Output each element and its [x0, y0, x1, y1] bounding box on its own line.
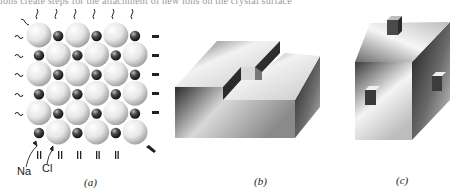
cl-ion [46, 120, 71, 145]
cl-ion [103, 100, 128, 125]
na-ion [53, 108, 63, 118]
figure: ions create steps for the attachment of … [0, 0, 460, 196]
label-cl: Cl [42, 162, 52, 174]
na-ion [91, 70, 101, 80]
na-ion [53, 70, 63, 80]
cl-ion [46, 42, 71, 67]
cl-ion [123, 120, 148, 145]
panel-label-a: (a) [84, 176, 97, 188]
na-ion [111, 50, 121, 60]
cl-ion [123, 81, 148, 106]
na-ion [34, 89, 44, 99]
left-bond-marks [15, 36, 23, 116]
na-ion [111, 128, 121, 138]
cl-ion [27, 23, 52, 48]
cl-ion [103, 23, 128, 48]
nacl-lattice [27, 23, 148, 145]
cl-ion [46, 81, 71, 106]
cl-ion [65, 100, 90, 125]
na-ion [130, 70, 140, 80]
figure-graphics [0, 0, 460, 196]
panel-label-c: (c) [396, 174, 408, 186]
top-adatom [387, 16, 402, 35]
cube-with-adatoms [355, 16, 450, 140]
label-na: Na [17, 165, 31, 177]
cl-ion [27, 100, 52, 125]
cl-ion [84, 42, 109, 67]
panel-label-b: (b) [254, 175, 267, 187]
cl-ion [123, 42, 148, 67]
na-ion [53, 31, 63, 41]
na-ion [91, 108, 101, 118]
na-ion [130, 108, 140, 118]
stepped-block [175, 41, 320, 138]
na-ion [72, 50, 82, 60]
cl-ion [27, 61, 52, 86]
right-bond-marks [146, 35, 159, 153]
cl-ion [103, 61, 128, 86]
cl-ion [65, 61, 90, 86]
na-ion [91, 31, 101, 41]
na-ion [130, 31, 140, 41]
na-ion [111, 89, 121, 99]
na-ion [34, 128, 44, 138]
cl-ion [65, 23, 90, 48]
na-ion [72, 128, 82, 138]
cl-ion [84, 120, 109, 145]
na-ion [72, 89, 82, 99]
cl-ion [84, 81, 109, 106]
na-ion [34, 50, 44, 60]
